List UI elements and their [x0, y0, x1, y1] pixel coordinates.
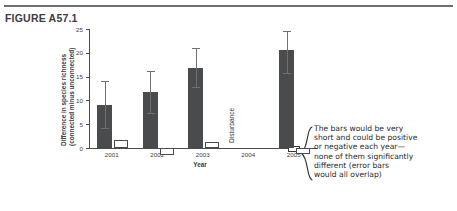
- bar-open-2005: [296, 148, 310, 154]
- disturbance-annotation: Disturbance: [228, 108, 235, 143]
- bar-open-2003: [205, 142, 219, 148]
- error-bar-cap-2005-low: [283, 73, 291, 74]
- error-bar-cap-2003-high: [192, 48, 200, 49]
- annotation-line-1: The bars would be very: [314, 124, 456, 133]
- error-bar-2001: [105, 81, 106, 128]
- y-tick-label: 0: [69, 145, 83, 152]
- y-tick-mark: [86, 148, 89, 149]
- annotation-line-5: different (error bars: [314, 161, 456, 170]
- error-bar-cap-2003-low: [192, 87, 200, 88]
- error-bar-cap-2005-high: [283, 31, 291, 32]
- error-bar-2005: [287, 31, 288, 73]
- x-tick-label: 2004: [233, 151, 263, 158]
- x-axis-label: Year: [170, 161, 230, 168]
- annotation-line-6: would all overlap): [314, 170, 456, 179]
- bar-open-2001: [114, 140, 128, 148]
- y-tick-label: 5: [69, 121, 83, 128]
- error-bar-cap-2001-high: [101, 81, 109, 82]
- y-tick-label: 20: [69, 49, 83, 56]
- error-bar-cap-2001-low: [101, 128, 109, 129]
- x-tick-label: 2001: [97, 151, 127, 158]
- y-tick-label: 10: [69, 97, 83, 104]
- bar-open-2002: [160, 148, 174, 155]
- error-bar-2002: [150, 71, 151, 113]
- header-divider: [4, 5, 453, 7]
- annotation-line-3: or negative each year—: [314, 142, 456, 151]
- figure-page: FIGURE A57.1 Difference in species richn…: [0, 0, 457, 211]
- error-bar-cap-2002-low: [147, 113, 155, 114]
- y-tick-label: 15: [69, 73, 83, 80]
- annotation-line-2: short and could be positive: [314, 133, 456, 142]
- page-title: FIGURE A57.1: [5, 12, 78, 24]
- x-tick-label: 2003: [188, 151, 218, 158]
- error-bar-2003: [196, 48, 197, 87]
- handwritten-annotation: The bars would be veryshort and could be…: [314, 124, 456, 179]
- error-bar-cap-2002-high: [147, 71, 155, 72]
- x-axis-line: [89, 148, 317, 149]
- annotation-line-4: none of them significantly: [314, 152, 456, 161]
- y-axis-label-line1: Difference in species richness: [60, 54, 67, 146]
- y-tick-label: 25: [69, 26, 83, 33]
